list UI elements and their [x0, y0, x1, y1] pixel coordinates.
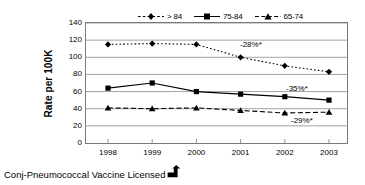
y-tick-label: 140: [69, 19, 82, 27]
chart-annotation: -29%*: [291, 116, 313, 125]
chart-legend: > 84 75-84 65-74: [128, 9, 313, 23]
legend-item-75-84: 75-84: [194, 12, 242, 21]
y-tick-label: 100: [69, 53, 82, 61]
legend-label-75-84: 75-84: [223, 12, 242, 21]
up-arrow-icon: [167, 165, 181, 181]
legend-item-over-84: > 84: [138, 12, 182, 21]
y-axis-title-text: Rate per 100K: [43, 49, 54, 117]
chart-annotation: -28%*: [240, 40, 262, 49]
x-axis-tick-labels: 199819992000200120022003: [85, 148, 348, 160]
x-tick-label: 1999: [143, 148, 161, 157]
x-tick-label: 2002: [276, 148, 294, 157]
footnote: Conj-Pneumococcal Vaccine Licensed: [4, 165, 181, 181]
plot-canvas: [86, 23, 347, 143]
x-tick-label: 2000: [187, 148, 205, 157]
legend-item-65-74: 65-74: [255, 12, 303, 21]
y-tick-label: 0: [78, 139, 82, 147]
legend-line-dashed-triangle: [255, 12, 281, 21]
y-tick-label: 120: [69, 36, 82, 44]
plot-area: [85, 22, 348, 144]
y-tick-label: 40: [73, 105, 82, 113]
x-tick-label: 1998: [99, 148, 117, 157]
legend-line-dotted-diamond: [138, 12, 164, 21]
y-tick-label: 60: [73, 88, 82, 96]
legend-line-solid-square: [194, 12, 220, 21]
legend-label-over-84: > 84: [167, 12, 182, 21]
x-tick-label: 2001: [232, 148, 250, 157]
y-tick-label: 20: [73, 122, 82, 130]
footnote-text: Conj-Pneumococcal Vaccine Licensed: [4, 169, 165, 181]
chart-annotation: -35%*: [286, 84, 308, 93]
chart-figure: > 84 75-84 65-74 Rate per 100K: [0, 0, 365, 185]
y-tick-label: 80: [73, 70, 82, 78]
legend-label-65-74: 65-74: [284, 12, 303, 21]
y-axis-tick-labels: 020406080100120140: [58, 22, 82, 144]
x-tick-label: 2003: [320, 148, 338, 157]
y-axis-title: Rate per 100K: [41, 22, 55, 144]
